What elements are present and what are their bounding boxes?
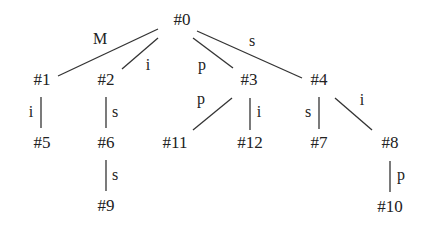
edge-label: M — [93, 30, 107, 47]
trie-diagram: Mipsisspisip#0#1#2#3#4#5#6#7#8#9#10#11#1… — [0, 0, 424, 230]
tree-svg: Mipsisspisip#0#1#2#3#4#5#6#7#8#9#10#11#1… — [0, 0, 424, 230]
edge-label: i — [360, 91, 365, 108]
tree-node-n2: #2 — [98, 70, 115, 89]
edge-label: p — [198, 56, 206, 74]
edge-n4-n7: s — [305, 97, 319, 129]
tree-node-n4: #4 — [311, 70, 329, 89]
tree-node-n10: #10 — [377, 197, 403, 216]
edge-label: s — [249, 32, 255, 49]
edge-n8-n10: p — [390, 161, 405, 192]
edge-n0-n1: M — [58, 29, 158, 76]
tree-node-n3: #3 — [241, 70, 258, 89]
edge-line — [335, 98, 372, 130]
tree-node-n11: #11 — [163, 133, 188, 152]
edge-label: p — [197, 90, 205, 108]
tree-node-n1: #1 — [34, 70, 51, 89]
edge-n3-n11: p — [193, 90, 232, 130]
edge-n1-n5: i — [29, 97, 41, 128]
edge-n6-n9: s — [106, 160, 118, 191]
edge-label: i — [257, 103, 262, 120]
edge-n0-n3: p — [193, 38, 233, 74]
edge-label: p — [397, 166, 405, 184]
edge-n4-n8: i — [335, 91, 372, 130]
edge-label: s — [112, 103, 118, 120]
tree-node-n8: #8 — [382, 133, 399, 152]
edge-line — [122, 38, 158, 69]
edge-n2-n6: s — [106, 97, 118, 128]
tree-node-n9: #9 — [98, 196, 115, 215]
tree-node-n12: #12 — [237, 133, 263, 152]
edge-label: s — [305, 103, 311, 120]
edge-label: s — [112, 166, 118, 183]
tree-node-n6: #6 — [98, 133, 115, 152]
edge-n3-n12: i — [250, 98, 262, 130]
edge-line — [58, 29, 158, 76]
edge-label: i — [146, 56, 151, 73]
tree-node-n5: #5 — [34, 133, 51, 152]
edge-label: i — [29, 103, 34, 120]
tree-node-n7: #7 — [311, 133, 329, 152]
tree-node-n0: #0 — [174, 10, 191, 29]
